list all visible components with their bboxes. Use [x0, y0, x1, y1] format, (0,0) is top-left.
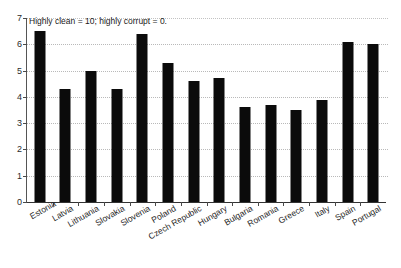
- bar-slot: [104, 18, 130, 202]
- bar-slot: [207, 18, 233, 202]
- bar-romania: [265, 105, 276, 202]
- bar-slot: [155, 18, 181, 202]
- bar-slot: [130, 18, 156, 202]
- bar-poland: [163, 63, 174, 202]
- corruption-index-bar-chart: 01234567 EstoniaLatviaLithuaniaSlovakiaS…: [0, 0, 401, 268]
- plot-area: 01234567: [26, 18, 386, 203]
- bar-estonia: [34, 31, 45, 202]
- y-tick-label-2: 2: [17, 145, 22, 154]
- y-tick-label-1: 1: [17, 171, 22, 180]
- y-tick-label-0: 0: [17, 198, 22, 207]
- bar-czech-republic: [188, 81, 199, 202]
- bar-portugal: [368, 44, 379, 202]
- bar-slovakia: [111, 89, 122, 202]
- x-axis-category-labels: EstoniaLatviaLithuaniaSlovakiaSloveniaPo…: [26, 204, 386, 266]
- bar-slot: [232, 18, 258, 202]
- y-tick-label-3: 3: [17, 119, 22, 128]
- y-tick-label-7: 7: [17, 14, 22, 23]
- bar-italy: [316, 100, 327, 203]
- bars-series: [27, 18, 386, 202]
- y-tick-label-4: 4: [17, 92, 22, 101]
- bar-slot: [53, 18, 79, 202]
- bar-hungary: [214, 78, 225, 202]
- bar-greece: [291, 110, 302, 202]
- bar-slot: [360, 18, 386, 202]
- bar-slot: [181, 18, 207, 202]
- bar-lithuania: [86, 71, 97, 202]
- bar-slot: [27, 18, 53, 202]
- y-tick-0: [23, 202, 27, 203]
- bar-slot: [335, 18, 361, 202]
- y-tick-label-5: 5: [17, 66, 22, 75]
- bar-slot: [283, 18, 309, 202]
- bar-slovenia: [137, 34, 148, 202]
- bar-slot: [258, 18, 284, 202]
- bar-spain: [342, 42, 353, 202]
- scale-note-annotation: Highly clean = 10; highly corrupt = 0.: [29, 16, 167, 27]
- bar-slot: [309, 18, 335, 202]
- bar-bulgaria: [239, 107, 250, 202]
- bar-slot: [78, 18, 104, 202]
- bar-latvia: [60, 89, 71, 202]
- y-tick-label-6: 6: [17, 40, 22, 49]
